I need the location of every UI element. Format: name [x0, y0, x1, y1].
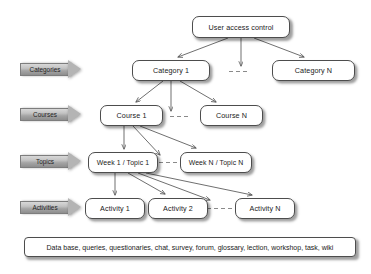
node-label: Category N [295, 66, 332, 75]
band-label: Topics [36, 158, 54, 165]
node-label: Week N / Topic N [189, 159, 244, 166]
node-activity-1[interactable]: Activity 1 [85, 198, 145, 219]
arrow-head-icon [68, 152, 81, 170]
node-week-1-topic-1[interactable]: Week 1 / Topic 1 [88, 152, 158, 173]
node-category-1[interactable]: Category 1 [132, 60, 210, 81]
node-activity-n[interactable]: Activity N [235, 198, 295, 219]
ellipsis-categories [229, 71, 247, 72]
node-course-n[interactable]: Course N [200, 105, 263, 126]
ellipsis-courses [170, 116, 188, 117]
ellipsis-activities [207, 208, 232, 209]
band-label: Courses [33, 111, 57, 118]
activity-types-label: Data base, queries, questionaries, chat,… [47, 244, 334, 251]
arrow-head-icon [68, 105, 81, 123]
edge-layer [0, 0, 371, 274]
node-category-n[interactable]: Category N [272, 60, 355, 81]
band-categories[interactable]: Categories [20, 60, 81, 78]
band-topics[interactable]: Topics [20, 152, 81, 170]
arrow-head-icon [68, 60, 81, 78]
band-label: Activities [32, 204, 57, 211]
node-user-access-control[interactable]: User access control [192, 16, 290, 38]
band-activities[interactable]: Activities [20, 198, 81, 216]
node-label: Category 1 [153, 66, 189, 75]
node-week-n-topic-n[interactable]: Week N / Topic N [180, 152, 252, 173]
node-label: Activity 1 [100, 204, 130, 213]
band-courses[interactable]: Courses [20, 105, 81, 123]
ellipsis-topics [159, 162, 177, 163]
node-activity-2[interactable]: Activity 2 [148, 198, 208, 219]
band-label: Categories [30, 66, 61, 73]
node-label: Activity 2 [163, 204, 193, 213]
activity-types-bar[interactable]: Data base, queries, questionaries, chat,… [24, 237, 356, 257]
node-label: Week 1 / Topic 1 [97, 159, 149, 166]
node-label: Course 1 [117, 111, 147, 120]
node-label: Course N [216, 111, 247, 120]
node-course-1[interactable]: Course 1 [100, 105, 163, 126]
node-label: User access control [208, 23, 273, 32]
diagram-canvas: User access control Categories Courses T… [0, 0, 371, 274]
arrow-head-icon [68, 198, 81, 216]
node-label: Activity N [250, 204, 281, 213]
